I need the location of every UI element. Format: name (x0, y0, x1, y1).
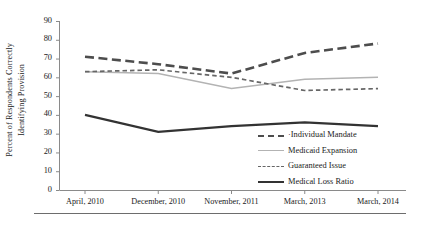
y-tick-label: 70 (30, 53, 52, 62)
y-tick-label: 50 (30, 91, 52, 100)
chart-legend: ·Individual Mandate Medicaid Expansion G… (258, 127, 434, 189)
legend-label-medicaid-expansion: Medicaid Expansion (288, 146, 357, 155)
legend-item-medicaid-expansion: Medicaid Expansion (258, 143, 434, 159)
legend-swatch-medicaid-expansion (258, 145, 284, 155)
y-axis-tick-marks (56, 22, 60, 191)
legend-swatch-individual-mandate (258, 130, 284, 140)
x-tick-label: March, 2014 (333, 197, 423, 206)
legend-label-guaranteed-issue: Guaranteed Issue (288, 161, 346, 170)
y-tick-label: 30 (30, 128, 52, 137)
legend-label-individual-mandate: ·Individual Mandate (288, 130, 357, 139)
legend-swatch-medical-loss-ratio (258, 176, 284, 186)
chart-figure: Percent of Respondents Correctly Identif… (0, 0, 438, 229)
plot-area (0, 0, 438, 229)
x-axis-tick-marks (85, 191, 378, 195)
data-series-layer (85, 44, 378, 132)
y-tick-label: 90 (30, 16, 52, 25)
legend-item-individual-mandate: ·Individual Mandate (258, 127, 434, 143)
series-line (85, 44, 378, 74)
legend-item-guaranteed-issue: Guaranteed Issue (258, 158, 434, 174)
y-tick-label: 80 (30, 34, 52, 43)
y-tick-label: 10 (30, 166, 52, 175)
footer-rule (34, 213, 406, 214)
y-tick-label: 0 (30, 185, 52, 194)
series-line (85, 72, 378, 89)
y-tick-label: 60 (30, 72, 52, 81)
legend-label-medical-loss-ratio: Medical Loss Ratio (288, 177, 354, 186)
y-tick-label: 40 (30, 109, 52, 118)
legend-item-medical-loss-ratio: Medical Loss Ratio (258, 174, 434, 190)
y-tick-label: 20 (30, 147, 52, 156)
legend-swatch-guaranteed-issue (258, 161, 284, 171)
